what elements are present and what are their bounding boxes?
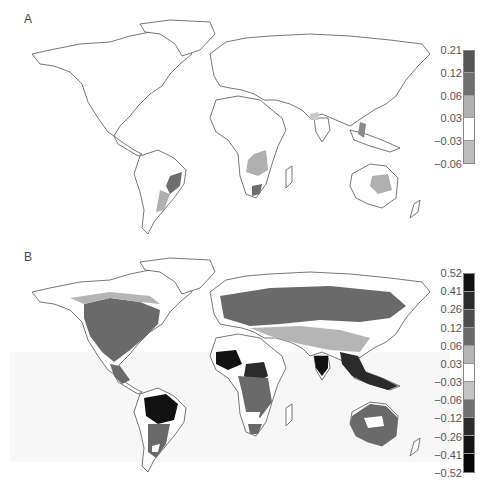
colorbar-a-labels: 0.210.120.060.03−0.03−0.06	[412, 50, 462, 164]
colorbar-tick-label: −0.03	[434, 135, 462, 147]
colorbar-a	[463, 50, 475, 164]
colorbar-segment	[464, 418, 474, 436]
colorbar-tick-label: −0.12	[434, 412, 462, 424]
colorbar-segment	[464, 96, 474, 118]
colorbar-tick-label: 0.26	[441, 303, 462, 315]
central-america-outline	[114, 136, 142, 156]
colorbar-b-labels: 0.520.410.260.120.060.03−0.03−0.06−0.12−…	[412, 273, 462, 473]
colorbar-segment	[464, 118, 474, 140]
colorbar-segment	[464, 364, 474, 382]
colorbar-tick-label: 0.52	[441, 267, 462, 279]
shade-south-africa	[252, 184, 262, 196]
colorbar-tick-label: 0.03	[441, 112, 462, 124]
colorbar-segment	[464, 51, 474, 73]
colorbar-b	[463, 273, 475, 473]
panel-b: B	[0, 244, 492, 488]
se-asia-outline	[350, 130, 400, 152]
colorbar-segment	[464, 310, 474, 328]
colorbar-tick-label: 0.21	[441, 44, 462, 56]
colorbar-segment	[464, 454, 474, 472]
colorbar-tick-label: −0.06	[434, 158, 462, 170]
panel-a: A	[0, 0, 492, 244]
colorbar-segment	[464, 328, 474, 346]
world-map-b	[10, 252, 450, 477]
colorbar-tick-label: 0.06	[441, 340, 462, 352]
colorbar-segment	[464, 274, 474, 292]
colorbar-tick-label: −0.41	[434, 449, 462, 461]
colorbar-tick-label: 0.06	[441, 90, 462, 102]
colorbar-segment	[464, 436, 474, 454]
colorbar-tick-label: 0.12	[441, 67, 462, 79]
world-map-a	[10, 14, 450, 239]
new-zealand-outline	[410, 200, 420, 218]
india-outline	[314, 118, 330, 142]
shade-africa-south	[246, 412, 260, 424]
colorbar-tick-label: 0.12	[441, 322, 462, 334]
colorbar-segment	[464, 73, 474, 95]
colorbar-tick-label: −0.26	[434, 431, 462, 443]
colorbar-tick-label: 0.03	[441, 358, 462, 370]
colorbar-tick-label: −0.06	[434, 394, 462, 406]
colorbar-tick-label: −0.52	[434, 467, 462, 479]
colorbar-tick-label: −0.03	[434, 376, 462, 388]
colorbar-segment	[464, 346, 474, 364]
madagascar-outline	[286, 166, 292, 188]
north-america-outline	[32, 32, 192, 136]
colorbar-segment	[464, 141, 474, 163]
colorbar-segment	[464, 400, 474, 418]
colorbar-segment	[464, 292, 474, 310]
colorbar-segment	[464, 382, 474, 400]
africa-outline	[210, 96, 286, 198]
colorbar-tick-label: 0.41	[441, 285, 462, 297]
